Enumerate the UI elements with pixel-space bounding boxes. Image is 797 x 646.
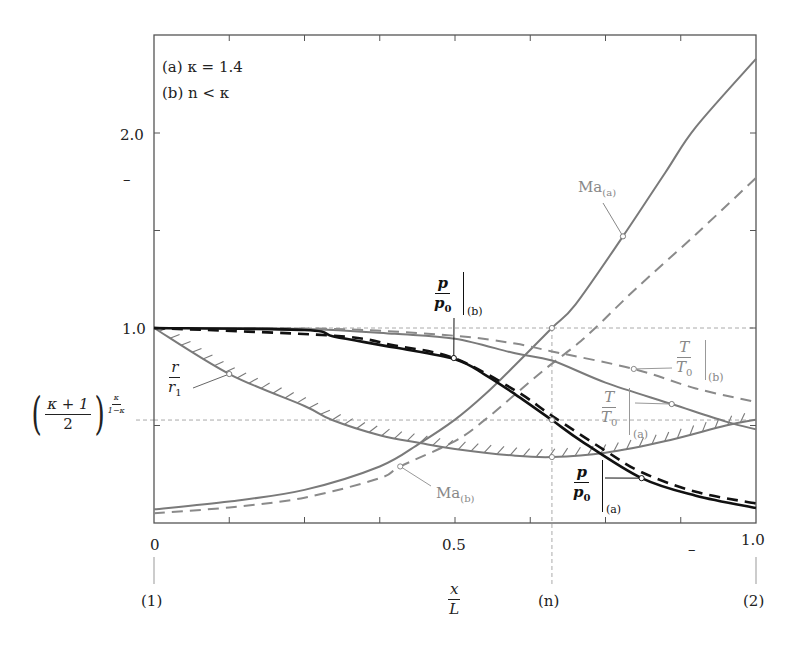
wall-hatch — [510, 448, 517, 456]
ma-b-sub: (b) — [460, 493, 474, 504]
wall-hatch — [214, 362, 223, 366]
marker-r-r1 — [227, 371, 232, 376]
wall-hatch — [369, 426, 377, 432]
t-t0-b-label: T T0 — [676, 338, 692, 378]
critical-exp-den: 1−κ — [108, 405, 125, 415]
ma-a-sub: (a) — [602, 187, 616, 198]
critical-exp-num: κ — [112, 394, 121, 405]
wall-hatch — [394, 432, 402, 439]
t-t0-a-eval-bar — [629, 388, 630, 435]
y-tick-label-2: 2.0 — [120, 126, 144, 144]
wall-hatch — [332, 414, 341, 420]
marker-t-t0-a- — [669, 401, 674, 406]
x-axis-label: x L — [448, 580, 460, 617]
x-axis-dash-mark: – — [688, 540, 696, 558]
marker-p-p0-b- — [451, 355, 456, 360]
critical-num: κ + 1 — [45, 397, 90, 415]
curve-p-p0-b- — [154, 328, 756, 504]
ma-b-label: Ma(b) — [436, 484, 475, 504]
wall-hatch — [458, 442, 465, 449]
x-tick-label-1: 1.0 — [741, 531, 765, 549]
critical-den: 2 — [63, 415, 73, 432]
marker-ma-a- — [620, 234, 625, 239]
p-p0-a-eval-bar — [602, 460, 603, 512]
critical-exponent: κ 1−κ — [108, 394, 125, 415]
x-tick-label-0-5: 0.5 — [442, 536, 466, 554]
wall-hatch — [261, 383, 270, 388]
wall-hatch — [192, 348, 202, 352]
p-p0-a-case: (a) — [606, 503, 621, 516]
wall-hatch — [471, 444, 478, 451]
x-axis-label-num: x — [448, 582, 460, 600]
wall-hatch — [484, 445, 491, 453]
p-p0-a-label: p p0 — [573, 463, 590, 503]
curve-ma-b- — [154, 178, 756, 513]
curves — [154, 59, 756, 513]
wall-hatch — [203, 355, 212, 359]
curve-t-t0-a- — [154, 328, 756, 429]
wall-hatch — [237, 373, 246, 378]
wall-hatch — [309, 403, 318, 408]
p-p0-b-eval-bar — [463, 272, 464, 315]
wall-hatch — [285, 393, 294, 398]
wall-hatch — [382, 429, 390, 436]
y-axis-dash-mark: – — [123, 170, 131, 188]
marker-p-p0-a- — [639, 476, 644, 481]
x-axis-label-den: L — [449, 600, 459, 617]
ma-a-label: Ma(a) — [578, 178, 616, 198]
critical-rparen: ) — [94, 392, 104, 436]
wall-hatch — [181, 342, 191, 346]
p-p0-b-case: (b) — [467, 305, 483, 318]
critical-ratio-label: ( κ + 1 2 ) κ 1−κ — [28, 392, 125, 436]
critical-lparen: ( — [31, 392, 41, 436]
wall-hatch — [497, 446, 504, 454]
wall-hatch — [297, 398, 306, 403]
station-2-label: (2) — [743, 592, 764, 610]
marker-t-t0-b- — [631, 366, 636, 371]
x-tick-label-0: 0 — [150, 536, 160, 554]
p-p0-b-label: p p0 — [434, 274, 451, 314]
wall-hatch — [433, 438, 440, 445]
wall-hatch — [170, 335, 180, 339]
annotation-case-a: (a) κ = 1.4 — [162, 58, 243, 76]
annotation-case-b: (b) n < κ — [162, 84, 229, 102]
wall-hatch — [562, 448, 568, 457]
wall-hatch — [273, 388, 282, 393]
station-1-label: (1) — [141, 592, 162, 610]
t-t0-b-eval-bar — [705, 340, 706, 380]
wall-hatch — [536, 449, 542, 457]
wall-hatch — [407, 434, 414, 441]
station-n-label: (n) — [538, 592, 559, 610]
marker-station-n — [549, 454, 554, 459]
t-t0-a-case: (a) — [633, 428, 648, 441]
y-tick-label-1: 1.0 — [122, 320, 146, 338]
wall-hatch — [357, 422, 365, 428]
wall-hatch — [320, 410, 329, 414]
leader-ma-a — [603, 203, 623, 236]
leader-t-t0-b — [634, 368, 672, 369]
leader-lines — [193, 203, 672, 486]
critical-fraction: κ + 1 2 — [45, 397, 90, 432]
marker-ma-b- — [398, 464, 403, 469]
wall-hatch — [344, 419, 352, 425]
t-t0-a-label: T T0 — [601, 388, 617, 428]
chart-canvas — [0, 0, 797, 646]
wall-hatch — [523, 449, 530, 457]
wall-hatch — [249, 378, 258, 383]
marker-station-n — [549, 325, 554, 330]
r-r1-label: r r1 — [168, 358, 182, 398]
leader-ma-b — [400, 466, 431, 486]
marker-station-n — [549, 417, 554, 422]
leader-r-r1 — [193, 374, 229, 388]
t-t0-b-case: (b) — [708, 371, 724, 384]
